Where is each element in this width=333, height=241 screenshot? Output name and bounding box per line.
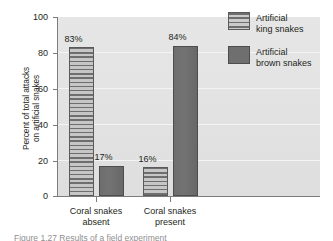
chart-legend: Artificial king snakes Artificial brown … <box>228 12 331 80</box>
y-axis-line <box>57 17 58 197</box>
bar-value-brown-snakes-absent: 17% <box>84 153 123 162</box>
x-tick-mark-group-1 <box>96 197 97 202</box>
bar-brown-snakes-present <box>173 46 198 196</box>
y-tick-label-60: 60 <box>2 85 48 94</box>
x-axis-label-coral-snakes-present: Coral snakes present <box>125 206 215 228</box>
y-axis-title: Percent of total attacks on artificial s… <box>21 15 42 201</box>
legend-label-king-snakes: Artificial king snakes <box>256 12 304 34</box>
legend-item-king-snakes: Artificial king snakes <box>228 12 331 34</box>
bar-brown-snakes-absent <box>99 166 124 196</box>
x-tick-mark-group-2 <box>170 197 171 202</box>
legend-label-brown-snakes: Artificial brown snakes <box>256 46 312 68</box>
bar-value-king-snakes-present: 16% <box>128 155 167 164</box>
bar-king-snakes-present <box>143 167 168 196</box>
y-tick-label-40: 40 <box>2 121 48 130</box>
legend-swatch-solid-icon <box>228 46 250 64</box>
figure-caption: Figure 1.27 Results of a field experimen… <box>14 234 314 241</box>
legend-item-brown-snakes: Artificial brown snakes <box>228 46 331 68</box>
figure-bar-chart: Percent of total attacks on artificial s… <box>0 0 333 241</box>
bar-king-snakes-absent <box>69 47 94 196</box>
legend-swatch-striped-icon <box>228 12 250 30</box>
y-tick-label-80: 80 <box>2 49 48 58</box>
bar-value-brown-snakes-present: 84% <box>158 33 197 42</box>
y-tick-label-20: 20 <box>2 157 48 166</box>
bar-value-king-snakes-absent: 83% <box>54 35 93 44</box>
y-tick-label-100: 100 <box>2 13 48 22</box>
y-tick-label-0: 0 <box>2 192 48 201</box>
